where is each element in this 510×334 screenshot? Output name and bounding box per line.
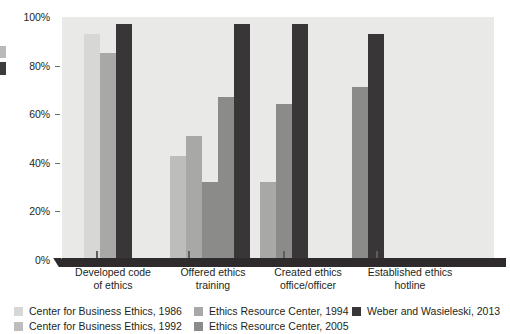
legend-swatch [194,307,203,316]
legend-label: Ethics Resource Center, 1994 [209,305,349,318]
bar-chart-figure: 100% 80% 60% 40% 20% 0% Developed code o… [0,0,510,334]
category-label-line: of ethics [58,279,168,292]
legend-label: Center for Business Ethics, 1986 [29,305,182,318]
category-label: Established ethics hotline [355,266,465,292]
y-axis-tick-mark [55,163,60,164]
category-label: Developed code of ethics [58,266,168,292]
legend-item: Center for Business Ethics, 1986 [14,305,182,318]
y-axis-tick-mark [55,211,60,212]
bars-layer [62,17,494,260]
category-divider-tick [376,251,378,258]
bar [186,136,202,260]
y-axis-tick-mark [55,114,60,115]
page-edge-mark-light [0,46,6,58]
bar [352,87,368,260]
legend-item: Ethics Resource Center, 2005 [194,320,349,333]
category-divider-tick [188,251,190,258]
y-axis-tick-label: 40% [10,157,50,169]
y-axis-tick-label: 80% [10,60,50,72]
category-divider-tick [96,251,98,258]
category-label-line: hotline [355,279,465,292]
category-divider-tick [283,251,285,258]
category-label-line: Created ethics [258,266,358,279]
legend-item: Weber and Wasieleski, 2013 [352,305,500,318]
legend-item: Ethics Resource Center, 1994 [194,305,349,318]
category-label-line: office/officer [258,279,358,292]
bar [84,34,100,260]
legend-swatch [194,322,203,331]
y-axis-tick-label: 100% [10,11,50,23]
legend-item: Center for Business Ethics, 1992 [14,320,182,333]
legend-label: Weber and Wasieleski, 2013 [367,305,500,318]
legend-label: Ethics Resource Center, 2005 [209,320,349,333]
legend-swatch [14,307,23,316]
category-label-line: training [163,279,263,292]
bar [368,34,384,260]
chart-legend: Center for Business Ethics, 1986 Center … [14,305,506,334]
page-edge-artifact [0,0,7,334]
bar [260,182,276,260]
bar [234,24,250,260]
y-axis-tick-label: 20% [10,205,50,217]
bar [100,53,116,260]
legend-label: Center for Business Ethics, 1992 [29,320,182,333]
category-label: Created ethics office/officer [258,266,358,292]
y-axis-tick-mark [55,66,60,67]
page-edge-mark-dark [0,62,6,75]
category-label: Offered ethics training [163,266,263,292]
category-label-line: Offered ethics [163,266,263,279]
bar [202,182,218,260]
bar [292,24,308,260]
bar [276,104,292,260]
legend-swatch [352,307,361,316]
bar [218,97,234,260]
plot-area [62,17,494,260]
category-label-line: Established ethics [355,266,465,279]
bar [116,24,132,260]
category-label-line: Developed code [58,266,168,279]
legend-swatch [14,322,23,331]
bar [170,156,186,260]
y-axis-tick-label: 0% [10,254,50,266]
y-axis-tick-label: 60% [10,108,50,120]
